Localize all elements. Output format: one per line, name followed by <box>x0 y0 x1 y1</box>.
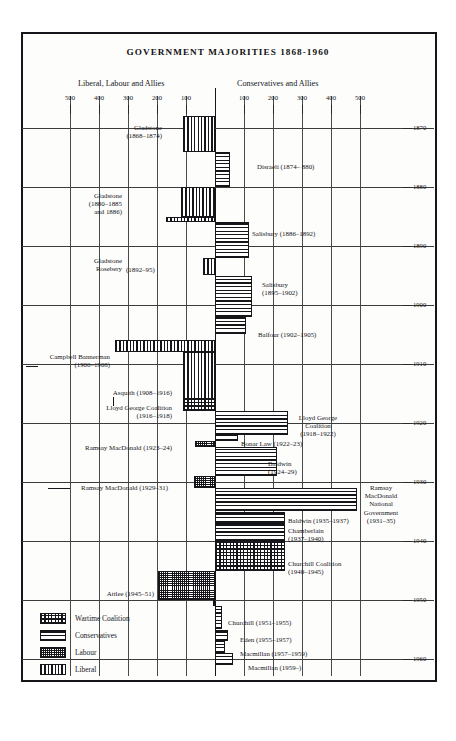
x-axis-label-left-500: 500 <box>57 94 83 101</box>
gridline-year-1950 <box>22 600 434 601</box>
bar-churchill-1951-1955 <box>215 606 222 630</box>
annotation-lloyd-george-coalition: Lloyd George Coalition (1916–1918) <box>72 404 172 420</box>
y-axis-label-1940: 1940 <box>413 537 426 544</box>
y-axis-tick-1900 <box>403 305 412 306</box>
x-axis-tick-left-400 <box>99 105 100 114</box>
y-axis-tick-1890 <box>403 246 412 247</box>
axis-subhead-right: Conservatives and Allies <box>237 79 318 88</box>
x-axis-label-left-400: 400 <box>86 94 112 101</box>
bar-churchill-coalition <box>215 541 285 571</box>
bar-bonar-law-1922-23 <box>215 435 238 441</box>
x-axis-tick-left-500 <box>70 105 71 114</box>
y-axis-tick-1960 <box>403 659 412 660</box>
annotation-gladstone-2: Gladstone (1880–1885 and 1886) <box>50 192 122 217</box>
gridline-year-1930 <box>22 482 434 483</box>
x-axis-label-left-200: 200 <box>144 94 170 101</box>
annotation-baldwin-2: Baldwin (1935–1937) <box>288 517 349 525</box>
gridline-vertical-right-500 <box>360 96 361 676</box>
x-axis-label-left-300: 300 <box>115 94 141 101</box>
annotation-macmillan-2: Macmillan (1959–) <box>248 664 301 672</box>
bar-ramsay-macdonald-1923-24 <box>195 441 215 447</box>
annotation-gladstone-rosebery: Gladstone Rosebery <box>58 257 122 273</box>
gridline-vertical-right-200 <box>273 96 274 676</box>
bar-lloyd-george <box>215 411 288 435</box>
bar-balfour-1902-1905 <box>215 317 246 335</box>
annotation-macdonald-2: Ramsay MacDonald (1929–31) <box>72 484 168 492</box>
government-majorities-chart: GOVERNMENT MAJORITIES 1868-1960 Liberal,… <box>0 0 456 741</box>
gridline-year-1880 <box>22 187 434 188</box>
x-axis-tick-right-400 <box>331 105 332 114</box>
legend-swatch-wartime <box>40 613 66 624</box>
annotation-bonar-law: Bonar Law (1922–23) <box>241 440 302 448</box>
annotation-gladstone-1: Gladstone (1868–1874) <box>92 124 162 140</box>
legend-swatch-liberal <box>40 664 66 675</box>
annotation-baldwin-1: Baldwin (1924–29) <box>268 460 297 476</box>
bar-asquith-1908-1916 <box>183 352 215 399</box>
bar-disraeli-1874-880 <box>215 152 230 187</box>
x-axis-tick-right-200 <box>273 105 274 114</box>
x-axis-label-right-100: 100 <box>231 94 257 101</box>
bar-macmillan-1957-1959 <box>215 641 225 653</box>
bar-gladstone <box>181 187 215 217</box>
legend-label-liberal: Liberal <box>75 664 96 675</box>
bar-gladstone <box>183 116 215 151</box>
annotation-salisbury-1: Salisbury (1886–1892) <box>252 230 315 238</box>
axis-subhead-left: Liberal, Labour and Allies <box>78 79 164 88</box>
bar-gladstone <box>203 258 215 276</box>
y-axis-label-1900: 1900 <box>413 301 426 308</box>
legend-label-wartime: Wartime Coalition <box>75 613 130 624</box>
annotation-lloyd-george-right: Lloyd George Coalition (1918–1922) <box>283 414 353 439</box>
y-axis-label-1880: 1880 <box>413 183 426 190</box>
x-axis-label-right-500: 500 <box>347 94 373 101</box>
gridline-vertical-left-300 <box>128 96 129 676</box>
y-axis-label-1890: 1890 <box>413 242 426 249</box>
x-axis-tick-left-100 <box>186 105 187 114</box>
bar-macmillan-1959 <box>215 653 233 665</box>
annotation-macmillan-1: Macmillan (1957–1959) <box>240 650 307 658</box>
bar-ramsay-macdonald-1929-31 <box>194 476 215 488</box>
bar-chamberlain <box>215 523 285 541</box>
y-axis-tick-1920 <box>403 423 412 424</box>
legend-swatch-cons <box>40 630 66 641</box>
bar-lloyd-george-coalition <box>183 399 215 411</box>
y-axis-tick-1930 <box>403 482 412 483</box>
gridline-vertical-right-100 <box>244 96 245 676</box>
bar-segment-3 <box>166 217 215 223</box>
y-axis-tick-1870 <box>403 128 412 129</box>
x-axis-label-right-300: 300 <box>289 94 315 101</box>
bar-salisbury <box>215 276 252 317</box>
y-axis-tick-1950 <box>403 600 412 601</box>
x-axis-tick-right-300 <box>302 105 303 114</box>
bar-eden-1955-1957 <box>215 630 228 642</box>
x-axis-label-right-200: 200 <box>260 94 286 101</box>
gridline-vertical-right-300 <box>302 96 303 676</box>
y-axis-label-1950: 1950 <box>413 596 426 603</box>
annotation-macdonald-1: Ramsay MacDonald (1923–24) <box>78 444 172 452</box>
x-axis-tick-left-300 <box>128 105 129 114</box>
annotation-national-government: Ramsay MacDonald National Government (19… <box>346 484 416 525</box>
legend-swatch-labour <box>40 647 66 658</box>
annotation-chamberlain: Chamberlain (1937–1940) <box>288 527 324 543</box>
page-title: GOVERNMENT MAJORITIES 1868-1960 <box>0 47 456 57</box>
annotation-attlee: Attlee (1945–51) <box>86 590 154 598</box>
x-axis-tick-right-500 <box>360 105 361 114</box>
annotation-gladstone-rosebery-years: (1892–95) <box>126 266 155 274</box>
y-axis-label-1920: 1920 <box>413 419 426 426</box>
gridline-year-1870 <box>22 128 434 129</box>
y-axis-tick-1940 <box>403 541 412 542</box>
x-axis-label-right-400: 400 <box>318 94 344 101</box>
leader-line-macdonald-2 <box>48 488 70 489</box>
annotation-asquith: Asquith (1908–1916) <box>92 389 172 397</box>
y-axis-label-1910: 1910 <box>413 360 426 367</box>
annotation-eden: Eden (1955–1957) <box>240 636 291 644</box>
y-axis-tick-1910 <box>403 364 412 365</box>
bar-salisbury-1886-1892 <box>215 222 249 257</box>
leader-line-campbell <box>26 366 38 367</box>
bar-baldwin-1935-1937 <box>215 512 285 524</box>
bar-campbell-bannerman <box>115 340 215 352</box>
annotation-churchill-coalition: Churchill Coalition (1940–1945) <box>288 560 341 576</box>
gridline-vertical-left-500 <box>70 96 71 676</box>
y-axis-tick-1880 <box>403 187 412 188</box>
annotation-salisbury-2: Salisbury (1895–1902) <box>262 281 298 297</box>
y-axis-label-1870: 1870 <box>413 124 426 131</box>
